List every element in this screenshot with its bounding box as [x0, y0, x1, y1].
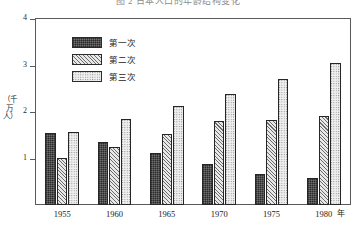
y-tick-label-2: 2	[23, 106, 27, 115]
y-tick-label-1: 1	[23, 153, 27, 162]
bar	[98, 142, 109, 205]
bar	[214, 121, 225, 205]
bar	[202, 164, 213, 205]
x-tick-label: 1955	[54, 209, 71, 219]
bar	[319, 116, 330, 205]
x-tick-label: 1980	[315, 209, 332, 219]
x-axis-unit-label: 年	[337, 209, 345, 219]
x-tick-label: 1975	[263, 209, 280, 219]
bar	[162, 134, 173, 205]
bar	[225, 94, 236, 205]
x-tick-label: 1965	[158, 209, 175, 219]
bar	[330, 63, 341, 205]
y-axis: 4 3 2 1	[0, 0, 35, 247]
bar	[121, 119, 132, 205]
y-tick-label-4: 4	[23, 13, 27, 22]
x-tick-label: 1970	[211, 209, 228, 219]
x-axis: 195519601965197019751980	[35, 207, 351, 227]
bar	[57, 158, 68, 205]
y-tick-label-3: 3	[23, 60, 27, 69]
bar-chart-figure: 图 2 日本人口的年龄结构变化 4 3 2 1 （千万人） 第一次	[0, 0, 356, 247]
bar	[150, 153, 161, 205]
bar	[307, 178, 318, 205]
bar	[266, 120, 277, 205]
chart-title: 图 2 日本人口的年龄结构变化	[0, 0, 356, 7]
bar	[45, 133, 56, 205]
bar	[109, 147, 120, 205]
bar	[255, 174, 266, 205]
bar	[173, 106, 184, 205]
bars-layer	[36, 19, 350, 205]
x-tick-label: 1960	[106, 209, 123, 219]
bar	[68, 132, 79, 205]
bar	[278, 79, 289, 205]
y-axis-title: （千万人）	[3, 96, 15, 122]
